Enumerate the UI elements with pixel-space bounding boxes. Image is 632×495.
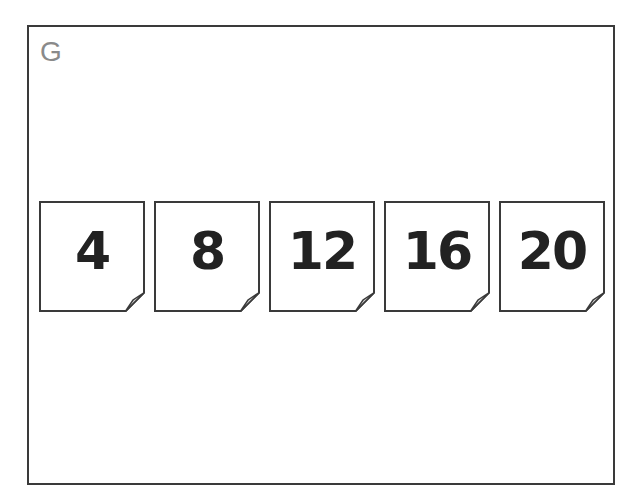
card-number: 8 xyxy=(156,221,258,281)
page-curl-icon xyxy=(123,290,145,312)
puzzle-panel: G 4 8 12 16 20 xyxy=(27,25,615,485)
page-curl-icon xyxy=(583,290,605,312)
number-card[interactable]: 12 xyxy=(269,201,375,312)
card-number: 12 xyxy=(271,221,373,281)
page-curl-icon xyxy=(353,290,375,312)
page-curl-icon xyxy=(468,290,490,312)
page-curl-icon xyxy=(238,290,260,312)
card-number: 20 xyxy=(501,221,603,281)
card-number: 4 xyxy=(41,221,143,281)
number-card[interactable]: 8 xyxy=(154,201,260,312)
card-number: 16 xyxy=(386,221,488,281)
card-row: 4 8 12 16 20 xyxy=(39,201,605,312)
number-card[interactable]: 16 xyxy=(384,201,490,312)
number-card[interactable]: 20 xyxy=(499,201,605,312)
panel-label: G xyxy=(40,38,62,66)
number-card[interactable]: 4 xyxy=(39,201,145,312)
